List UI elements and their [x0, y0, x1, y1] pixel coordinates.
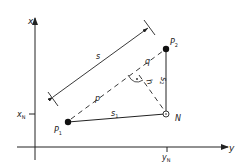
q-label: q	[145, 57, 150, 66]
right-angle-dot	[136, 78, 138, 80]
s2-label: s2	[159, 77, 169, 84]
p1-label: P1	[54, 126, 62, 136]
point-p2	[163, 46, 169, 52]
point-n-center	[165, 113, 167, 115]
right-angle-symbol	[128, 75, 143, 82]
p2-label: P2	[170, 38, 178, 48]
s1-label: s1	[111, 109, 118, 119]
geometry-diagram: x y xN yN s p q h s1 s2 P1 P2 N	[0, 0, 245, 168]
x-n-label: xN	[16, 110, 26, 120]
dimension-end-bar-right	[144, 20, 155, 35]
p-label: p	[94, 94, 100, 103]
point-p1	[65, 119, 71, 125]
h-label: h	[144, 78, 154, 86]
n-label: N	[175, 114, 181, 123]
horizontal-axis-label: y	[228, 143, 235, 153]
s-label: s	[96, 52, 100, 61]
vertical-axis-label: x	[27, 16, 34, 26]
dimension-line-s	[53, 28, 148, 97]
y-n-label: yN	[161, 153, 171, 163]
